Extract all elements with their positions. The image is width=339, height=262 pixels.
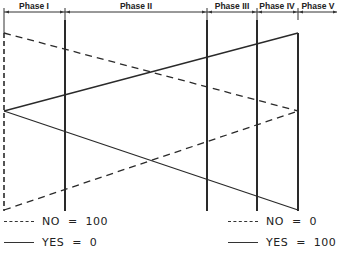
dashed-line-swatch-icon [228, 221, 258, 222]
legend-right-yes-label: YES = 100 [266, 236, 336, 249]
phase-label-1: Phase I [19, 1, 49, 11]
phase-label-4: Phase IV [259, 1, 295, 11]
solid-line-swatch-icon [228, 242, 258, 243]
phase-label-5: Phase V [301, 1, 334, 11]
legend-left-no: NO = 100 [4, 215, 108, 228]
legend-left-yes-label: YES = 0 [42, 236, 97, 249]
legend-left-no-label: NO = 100 [42, 215, 108, 228]
legend-right-no: NO = 0 [228, 215, 317, 228]
legend-left-yes: YES = 0 [4, 236, 97, 249]
legend-right-no-label: NO = 0 [266, 215, 317, 228]
dashed-line-swatch-icon [4, 221, 34, 222]
legend-right-yes: YES = 100 [228, 236, 336, 249]
phase-boundaries [65, 20, 298, 211]
solid-line-swatch-icon [4, 242, 34, 243]
phase-label-2: Phase II [120, 1, 152, 11]
phase-label-3: Phase III [215, 1, 250, 11]
